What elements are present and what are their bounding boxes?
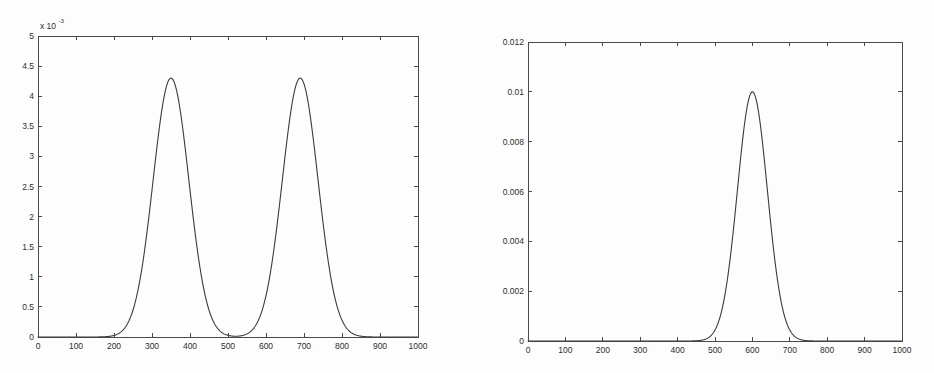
y-tick-label: 0.01 [507, 87, 524, 97]
chart-left: 0100200300400500600700800900100000.511.5… [0, 0, 467, 373]
x-tick-label: 800 [335, 341, 349, 351]
y-axis-exponent-label: x 10 -3 [40, 17, 64, 32]
chart-right: 0100200300400500600700800900100000.0020.… [467, 0, 934, 373]
x-tick-label: 200 [107, 341, 121, 351]
x-tick-label: 0 [526, 345, 531, 355]
x-tick-label: 500 [708, 345, 722, 355]
x-tick-label: 700 [297, 341, 311, 351]
x-tick-label: 900 [858, 345, 872, 355]
y-tick-label: 2.5 [22, 182, 34, 192]
x-tick-label: 600 [745, 345, 759, 355]
screenshot-root: 0100200300400500600700800900100000.511.5… [0, 0, 934, 373]
x-tick-label: 800 [820, 345, 834, 355]
x-tick-label: 100 [558, 345, 572, 355]
y-tick-label: 0.008 [503, 137, 525, 147]
x-tick-label: 600 [259, 341, 273, 351]
x-tick-label: 0 [36, 341, 41, 351]
x-tick-label: 400 [183, 341, 197, 351]
y-tick-label: 1.5 [22, 242, 34, 252]
y-tick-label: 0.5 [22, 302, 34, 312]
y-tick-label: 3.5 [22, 121, 34, 131]
y-tick-label: 3 [29, 151, 34, 161]
data-curve [528, 92, 902, 341]
y-tick-label: 0.012 [503, 37, 525, 47]
y-tick-label: 0.004 [503, 236, 525, 246]
x-tick-label: 500 [221, 341, 235, 351]
x-tick-label: 400 [671, 345, 685, 355]
chart-right-canvas: 0100200300400500600700800900100000.0020.… [467, 0, 934, 373]
y-tick-label: 4 [29, 91, 34, 101]
x-tick-label: 900 [373, 341, 387, 351]
x-tick-label: 300 [633, 345, 647, 355]
x-tick-label: 300 [145, 341, 159, 351]
x-tick-label: 1000 [409, 341, 428, 351]
x-tick-label: 100 [69, 341, 83, 351]
y-tick-label: 0.002 [503, 286, 525, 296]
y-tick-label: 0 [29, 332, 34, 342]
y-tick-label: 5 [29, 31, 34, 41]
x-tick-label: 200 [596, 345, 610, 355]
y-tick-label: 0 [519, 336, 524, 346]
y-tick-label: 4.5 [22, 61, 34, 71]
y-tick-label: 2 [29, 212, 34, 222]
y-tick-label: 1 [29, 272, 34, 282]
chart-left-canvas: 0100200300400500600700800900100000.511.5… [0, 0, 467, 373]
y-tick-label: 0.006 [503, 187, 525, 197]
x-tick-label: 1000 [893, 345, 912, 355]
x-tick-label: 700 [783, 345, 797, 355]
plot-box [38, 36, 418, 337]
data-curve [38, 78, 418, 337]
plot-box [528, 42, 902, 341]
